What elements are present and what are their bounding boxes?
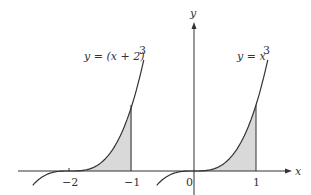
- curve-label-right-exponent: 3: [263, 44, 270, 57]
- x-axis-arrow-icon: [285, 169, 292, 174]
- tick-label-neg1: −1: [124, 176, 140, 189]
- y-axis-label: y: [189, 7, 197, 20]
- shaded-region-left: [70, 105, 132, 171]
- curve-label-left-exponent: 3: [139, 44, 146, 57]
- y-axis-arrow-icon: [192, 22, 197, 29]
- tick-label-neg2: −2: [62, 176, 78, 189]
- shaded-region-right: [194, 105, 256, 171]
- curve-label-right: y = x: [236, 50, 266, 63]
- tick-label-1: 1: [253, 176, 260, 189]
- x-axis-label: x: [295, 165, 302, 178]
- tick-label-0: 0: [186, 176, 193, 189]
- function-graph: y x −2 −1 0 1 y = (x + 2) 3 y = x 3: [0, 0, 311, 195]
- curve-label-left: y = (x + 2): [83, 50, 144, 63]
